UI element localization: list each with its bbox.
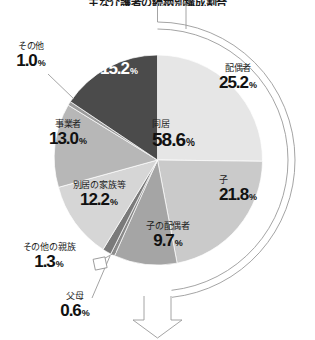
label-ko-value: 21.8	[219, 185, 248, 204]
label-sonota-name: その他	[2, 42, 60, 51]
label-sonota-pct: %	[38, 58, 46, 68]
pie-chart-figure: 主な介護者の続柄別構成割合	[0, 0, 315, 340]
label-doukyo-pct: %	[186, 137, 195, 148]
label-shinzoku-pct: %	[56, 259, 64, 269]
label-doukyo: 同居 58.6%	[152, 120, 228, 149]
label-fubo: 父母 0.6%	[44, 292, 106, 319]
label-kohaigu: 子の配偶者 9.7%	[128, 222, 208, 249]
label-doukyo-name: 同居	[152, 120, 228, 129]
label-haiguusha-value: 25.2	[219, 73, 248, 92]
label-fubo-name: 父母	[44, 292, 106, 301]
down-arrow-icon	[133, 296, 182, 338]
callout-markers	[93, 257, 107, 270]
label-fushou-name: 不詳	[88, 50, 150, 59]
label-sonota-value: 1.0	[16, 51, 37, 70]
label-sonota: その他 1.0%	[2, 42, 60, 69]
label-fushou-pct: %	[130, 66, 138, 76]
label-ko-pct: %	[249, 192, 257, 202]
label-haiguusha-name: 配偶者	[202, 64, 274, 73]
label-ko-name: 子	[219, 176, 289, 185]
label-fubo-value: 0.6	[60, 301, 81, 320]
label-shinzoku-name: その他の親族	[4, 243, 94, 252]
label-haiguusha: 配偶者 25.2%	[202, 64, 274, 91]
label-shinzoku-value: 1.3	[34, 252, 55, 271]
label-kohaigu-value: 9.7	[153, 231, 174, 250]
label-fushou-value: 15.2	[100, 59, 129, 78]
label-bekkyo: 別居の家族等 12.2%	[54, 181, 144, 208]
label-jigyousha-pct: %	[79, 136, 87, 146]
label-jigyousha-value: 13.0	[49, 129, 78, 148]
label-doukyo-value: 58.6	[152, 129, 185, 150]
label-bekkyo-pct: %	[110, 197, 118, 207]
label-kohaigu-name: 子の配偶者	[128, 222, 208, 231]
label-haiguusha-pct: %	[249, 80, 257, 90]
label-bekkyo-value: 12.2	[80, 190, 109, 209]
label-jigyousha-name: 事業者	[36, 120, 100, 129]
label-shinzoku: その他の親族 1.3%	[4, 243, 94, 270]
label-fubo-pct: %	[82, 308, 90, 318]
bracket-cap	[158, 3, 187, 29]
label-kohaigu-pct: %	[175, 238, 183, 248]
label-ko: 子 21.8%	[219, 176, 289, 203]
label-fushou: 不詳 15.2%	[88, 50, 150, 77]
label-jigyousha: 事業者 13.0%	[36, 120, 100, 147]
label-bekkyo-name: 別居の家族等	[54, 181, 144, 190]
